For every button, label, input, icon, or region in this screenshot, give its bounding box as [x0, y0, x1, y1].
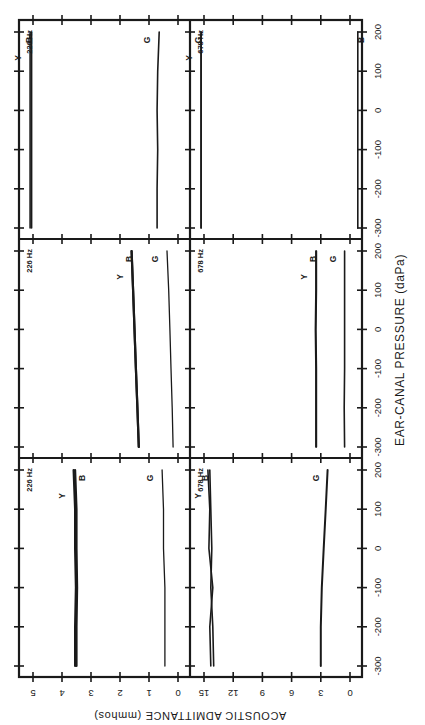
frequency-label: 226 Hz [25, 249, 34, 273]
frequency-label: 226 Hz [25, 468, 34, 492]
panel-p2-678: YBG678 Hz [196, 249, 345, 447]
admittance-tick-label: 2 [117, 688, 122, 699]
frequency-label: 678 Hz [196, 249, 205, 273]
frequency-label: 226 Hz [25, 30, 34, 54]
admittance-tick-label: 15 [199, 688, 210, 699]
series-label-b: B [124, 256, 134, 262]
pressure-tick-label: 0 [372, 108, 383, 113]
pressure-tick-label: 200 [372, 462, 383, 478]
admittance-tick-label: 12 [228, 688, 239, 699]
axes-group: 01234503691215-300-200-1000100200-300-20… [14, 15, 383, 699]
rotated-tympanogram-figure: YBG226 HzYBG678 HzYBG226 HzYBG678 HzYBG2… [0, 0, 425, 725]
pressure-tick-label: -100 [372, 359, 383, 378]
series-label-y: Y [115, 274, 125, 280]
frequency-label: 678 Hz [196, 468, 205, 492]
admittance-tick-label: 3 [318, 688, 323, 699]
pressure-tick-label: 200 [372, 243, 383, 259]
panel-p3-226: YBG226 Hz [13, 30, 159, 228]
pressure-tick-label: -200 [372, 179, 383, 198]
series-label-g: G [311, 474, 321, 481]
trace-b [132, 251, 139, 447]
admittance-tick-label: 1 [146, 688, 151, 699]
trace-g [157, 32, 159, 228]
frequency-label: 678 Hz [196, 30, 205, 54]
trace-b [316, 251, 317, 447]
trace-g [162, 470, 165, 666]
pressure-tick-label: 100 [372, 282, 383, 298]
series-label-g: G [142, 36, 152, 43]
trace-g [167, 251, 173, 447]
series-label-g: G [145, 474, 155, 481]
pressure-tick-label: -200 [372, 617, 383, 636]
panel-p1-226: YBG226 Hz [25, 468, 165, 666]
trace-g [321, 470, 328, 666]
admittance-tick-label: 0 [175, 688, 180, 699]
pressure-tick-label: 200 [372, 24, 383, 40]
series-label-b: B [308, 256, 318, 262]
admittance-tick-label: 4 [59, 688, 64, 699]
series-label-y: Y [57, 493, 67, 499]
series-label-y: Y [193, 493, 203, 499]
series-label-y: Y [299, 274, 309, 280]
series-label-b: B [77, 475, 87, 481]
pressure-tick-label: 100 [372, 501, 383, 517]
pressure-tick-label: -100 [372, 578, 383, 597]
pressure-tick-label: -100 [372, 140, 383, 159]
pressure-tick-label: 100 [372, 63, 383, 79]
admittance-tick-label: 9 [260, 688, 265, 699]
panel-p3-678: YGB678 Hz [184, 30, 366, 228]
admittance-tick-label: 3 [88, 688, 93, 699]
admittance-tick-label: 0 [347, 688, 352, 699]
admittance-tick-label: 5 [30, 688, 35, 699]
pressure-tick-label: -300 [372, 656, 383, 675]
panel-p2-226: YBG226 Hz [25, 249, 173, 447]
pressure-tick-label: -300 [372, 437, 383, 456]
series-label-g: G [150, 255, 160, 262]
series-label-g: G [328, 255, 338, 262]
pressure-axis-title: EAR-CANAL PRESSURE (daPa) [393, 254, 407, 446]
panel-p1-678: YBG678 Hz [193, 468, 328, 666]
admittance-axis-title: ACOUSTIC ADMITTANCE (mmhos) [94, 710, 287, 722]
pressure-tick-label: -200 [372, 398, 383, 417]
figure-canvas: YBG226 HzYBG678 HzYBG226 HzYBG678 HzYBG2… [0, 0, 425, 725]
pressure-tick-label: 0 [372, 327, 383, 332]
admittance-tick-label: 6 [289, 688, 294, 699]
pressure-tick-label: 0 [372, 546, 383, 551]
pressure-tick-label: -300 [372, 218, 383, 237]
